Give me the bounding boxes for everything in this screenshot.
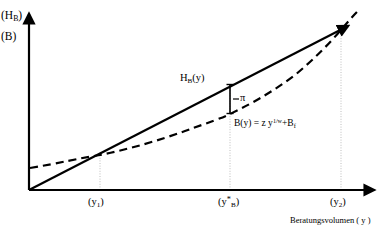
- tick-label-yb-post: ): [236, 196, 240, 207]
- tick-label-y1-pre: (y: [88, 196, 97, 207]
- y-axis-label-hb: (HB): [1, 10, 22, 22]
- tick-label-y1-sub: 1: [97, 201, 101, 209]
- solid-curve-label: HB(y): [180, 73, 205, 84]
- y-axis-label-b: (B): [1, 31, 16, 43]
- x-axis-title: Beratungsvolumen ( y ): [290, 216, 371, 225]
- tick-label-y2-post: ): [342, 196, 346, 207]
- y-axis-label-hb-tail: ): [18, 9, 22, 21]
- solid-line-hby: [29, 26, 348, 190]
- tick-label-y2-sub: 2: [339, 201, 343, 209]
- dashed-curve-formula-lhs: B(y) = z y: [234, 118, 273, 128]
- tick-label-yb-pre: (y: [218, 196, 227, 207]
- profit-gap-label: π: [240, 93, 245, 104]
- y-axis-label-hb-text: (H: [1, 9, 13, 21]
- dashed-curve-formula-rhs: +B: [282, 118, 294, 128]
- tick-label-y1-post: ): [100, 196, 104, 207]
- tick-label-y2: (y2): [330, 197, 346, 208]
- plot-canvas: [0, 0, 383, 231]
- solid-curve-label-tail: (y): [192, 72, 204, 83]
- dashed-curve-formula-exponent: 1/w: [273, 118, 282, 124]
- y-axis-label-b-text: (B): [1, 30, 16, 42]
- dashed-curve-by: [30, 12, 357, 168]
- dashed-curve-formula-rhs-sub: f: [294, 122, 296, 129]
- dashed-curve-formula: B(y) = z y1/w+Bf: [234, 119, 296, 129]
- tick-label-y2-pre: (y: [330, 196, 339, 207]
- tick-label-y1: (y1): [88, 197, 104, 208]
- tick-label-yb-sub: B: [231, 201, 236, 209]
- y-axis-label-hb-sub: B: [13, 14, 18, 23]
- solid-curve-label-base: H: [180, 72, 188, 83]
- solid-curve-label-sub: B: [188, 77, 193, 85]
- economics-diagram-figure: (HB) (B) HB(y) π B(y) = z y1/w+Bf (y1) (…: [0, 0, 383, 231]
- tick-label-yb-star: (y*B): [218, 197, 239, 208]
